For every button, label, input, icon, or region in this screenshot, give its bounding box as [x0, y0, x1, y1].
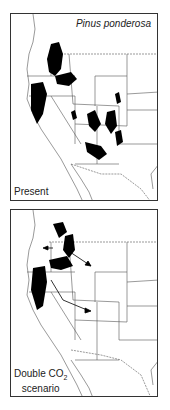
map-present: [11, 14, 158, 201]
species-title: Pinus ponderosa: [76, 18, 151, 29]
co2-subscript: 2: [63, 374, 67, 381]
map-panel-double-co2: Double CO2 scenario: [10, 209, 158, 397]
double-co2-text: Double CO: [14, 368, 63, 379]
double-co2-label: Double CO2 scenario: [14, 368, 67, 394]
map-panel-present: Pinus ponderosa Present: [10, 13, 158, 201]
present-label: Present: [14, 186, 48, 197]
scenario-text: scenario: [22, 383, 60, 394]
